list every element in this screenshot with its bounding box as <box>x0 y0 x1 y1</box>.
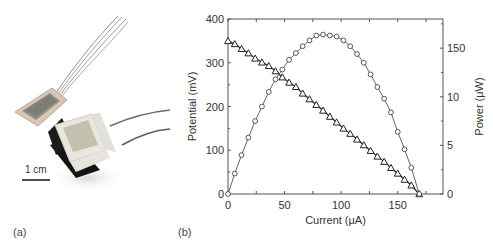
triangle-marker <box>225 37 232 43</box>
circle-marker <box>417 192 422 197</box>
circle-marker <box>280 67 285 72</box>
circle-marker <box>232 171 237 176</box>
photo-panel: 1 cm (a) <box>0 0 200 243</box>
triangle-marker <box>320 107 327 113</box>
y-tick-label: 300 <box>206 57 224 69</box>
triangle-marker <box>245 50 252 56</box>
triangle-marker <box>279 74 286 80</box>
y2-tick-label: 150 <box>447 42 465 54</box>
circle-marker <box>334 34 339 39</box>
x-tick-label: 0 <box>225 199 231 211</box>
circle-marker <box>287 57 292 62</box>
circle-marker <box>226 192 231 197</box>
circle-marker <box>341 38 346 43</box>
circle-marker <box>293 51 298 56</box>
y-tick-label: 0 <box>218 188 224 200</box>
power-series <box>226 32 422 196</box>
triangle-marker <box>299 90 306 96</box>
circle-marker <box>355 52 360 57</box>
y2-axis-title: Power (μW) <box>473 77 485 135</box>
y2-tick-label: 0 <box>447 188 453 200</box>
triangle-marker <box>231 41 238 47</box>
triangle-marker <box>401 176 408 182</box>
triangle-marker <box>347 130 354 136</box>
triangle-marker <box>313 101 320 107</box>
scale-bar-label: 1 cm <box>25 164 47 175</box>
triangle-marker <box>374 153 381 159</box>
circle-marker <box>246 135 251 140</box>
y-tick-label: 100 <box>206 144 224 156</box>
y-tick-label: 200 <box>206 101 224 113</box>
x-tick-label: 100 <box>332 199 350 211</box>
circle-marker <box>314 33 319 38</box>
y-tick-label: 400 <box>206 13 224 25</box>
triangle-marker <box>326 113 333 119</box>
circle-marker <box>239 153 244 158</box>
triangle-marker <box>265 62 272 68</box>
chart-axes <box>228 19 443 194</box>
circle-marker <box>361 60 366 65</box>
x-axis-title: Current (μA) <box>305 214 366 226</box>
small-device <box>15 88 67 126</box>
triangle-marker <box>388 164 395 170</box>
power-line <box>228 35 419 194</box>
triangle-marker <box>367 147 374 153</box>
triangle-marker <box>272 68 279 74</box>
triangle-marker <box>340 125 347 131</box>
plot-frame <box>228 19 443 194</box>
small-device-wires <box>56 16 128 96</box>
x-tick-label: 150 <box>389 199 407 211</box>
large-device-wires <box>110 110 170 145</box>
panel-b-label: (b) <box>178 226 191 238</box>
circle-marker <box>253 119 258 124</box>
x-tick-label: 50 <box>278 199 290 211</box>
chart-series <box>225 32 423 197</box>
triangle-marker <box>286 79 293 85</box>
triangle-marker <box>354 136 361 142</box>
potential-line <box>228 41 419 194</box>
circle-marker <box>395 129 400 134</box>
panel-a-label: (a) <box>13 226 26 238</box>
triangle-marker <box>292 83 299 89</box>
triangle-marker <box>408 182 415 188</box>
triangle-marker <box>416 191 423 197</box>
triangle-marker <box>259 59 266 65</box>
circle-marker <box>375 85 380 90</box>
circle-marker <box>307 38 312 43</box>
triangle-marker <box>252 55 259 61</box>
circle-marker <box>402 147 407 152</box>
triangle-marker <box>360 142 367 148</box>
triangle-marker <box>394 170 401 176</box>
circle-marker <box>368 72 373 77</box>
triangle-marker <box>381 158 388 164</box>
circle-marker <box>348 44 353 49</box>
circle-marker <box>321 32 326 37</box>
circle-marker <box>327 33 332 38</box>
circle-marker <box>260 104 265 109</box>
circle-marker <box>409 165 414 170</box>
triangle-marker <box>238 45 245 51</box>
triangle-marker <box>306 96 313 102</box>
triangle-marker <box>333 119 340 125</box>
y2-tick-label: 10 <box>447 91 459 103</box>
circle-marker <box>389 110 394 115</box>
circle-marker <box>300 44 305 49</box>
potential-series <box>225 37 423 196</box>
chart-labels: 05010015001002003004000510150Current (μA… <box>186 13 485 226</box>
circle-marker <box>273 77 278 82</box>
circle-marker <box>382 96 387 101</box>
circle-marker <box>266 90 271 95</box>
device-photo <box>0 0 200 243</box>
y2-tick-label: 5 <box>447 139 453 151</box>
